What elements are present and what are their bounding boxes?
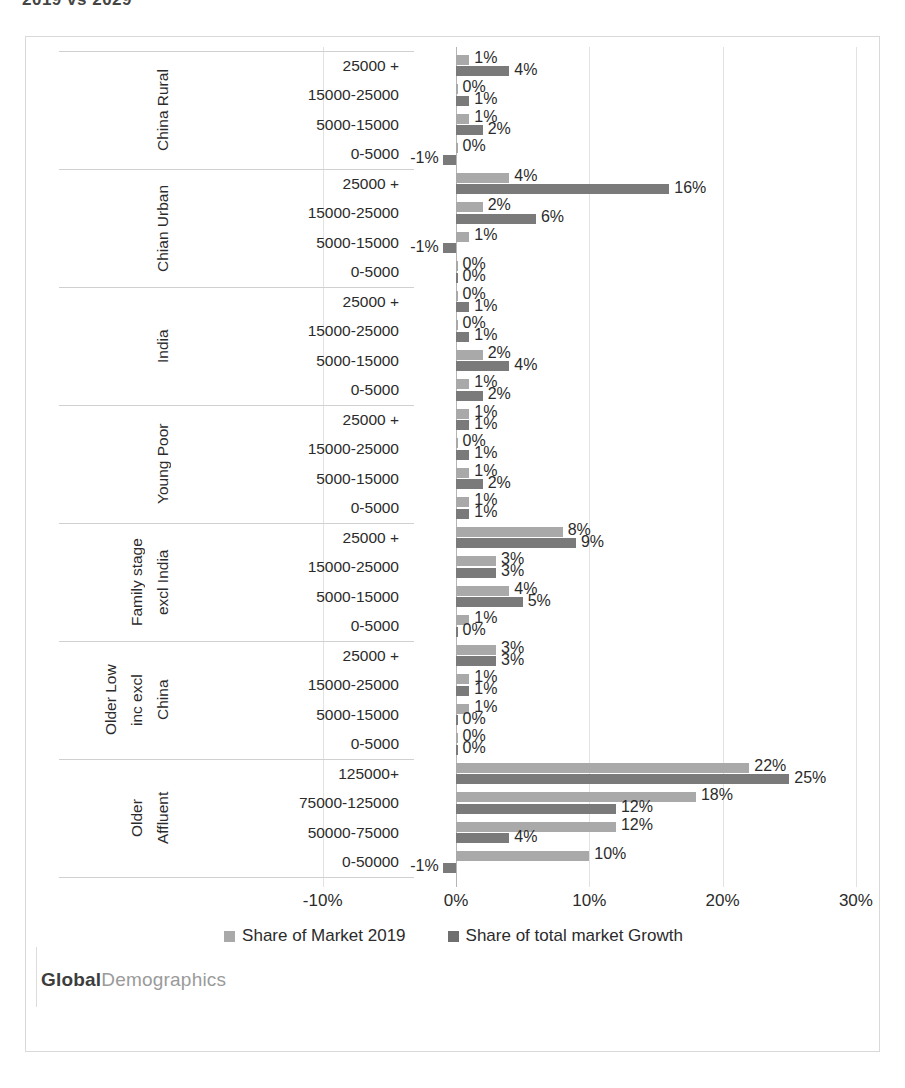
band-label: 15000-25000 bbox=[26, 205, 399, 221]
legend-swatch-icon bbox=[448, 931, 459, 942]
x-tick-label: 30% bbox=[839, 891, 873, 911]
title-remnant: 2019 vs 2029 bbox=[22, 0, 262, 12]
data-label: 1% bbox=[474, 416, 497, 432]
bar bbox=[456, 438, 458, 448]
band-label: 5000-15000 bbox=[26, 353, 399, 369]
data-label: 1% bbox=[474, 681, 497, 697]
data-label: 1% bbox=[474, 445, 497, 461]
bar bbox=[456, 645, 496, 655]
bar bbox=[456, 143, 458, 153]
bar bbox=[456, 55, 469, 65]
bar bbox=[456, 774, 789, 784]
bar bbox=[456, 391, 483, 401]
band-label: 0-50000 bbox=[26, 854, 399, 870]
data-label: -1% bbox=[401, 150, 439, 166]
bar bbox=[456, 420, 469, 430]
bar bbox=[456, 173, 509, 183]
data-label: 0% bbox=[463, 711, 486, 727]
band-label: 15000-25000 bbox=[26, 323, 399, 339]
bar bbox=[456, 232, 469, 242]
group-separator bbox=[59, 523, 414, 524]
bar bbox=[456, 214, 536, 224]
band-label: 5000-15000 bbox=[26, 117, 399, 133]
bar bbox=[456, 851, 589, 861]
bar bbox=[456, 202, 483, 212]
bar bbox=[443, 243, 456, 253]
data-label: 2% bbox=[488, 475, 511, 491]
bar bbox=[456, 479, 483, 489]
bar bbox=[456, 332, 469, 342]
group-separator bbox=[59, 51, 414, 52]
bar bbox=[456, 114, 469, 124]
bar bbox=[456, 763, 749, 773]
bar bbox=[456, 84, 458, 94]
data-label: 2% bbox=[488, 386, 511, 402]
bar bbox=[456, 66, 509, 76]
data-label: 0% bbox=[463, 268, 486, 284]
band-label: 15000-25000 bbox=[26, 677, 399, 693]
band-label: 125000+ bbox=[26, 766, 399, 782]
data-label: 4% bbox=[514, 62, 537, 78]
bar bbox=[456, 320, 458, 330]
bar bbox=[456, 450, 469, 460]
data-label: 18% bbox=[701, 787, 733, 803]
group-separator bbox=[59, 405, 414, 406]
band-label: 0-5000 bbox=[26, 382, 399, 398]
data-label: 2% bbox=[488, 121, 511, 137]
band-label: 5000-15000 bbox=[26, 471, 399, 487]
brand-logo: GlobalDemographics bbox=[41, 969, 226, 991]
data-label: 0% bbox=[463, 622, 486, 638]
bar bbox=[456, 302, 469, 312]
x-tick-label: 10% bbox=[572, 891, 606, 911]
band-label: 5000-15000 bbox=[26, 707, 399, 723]
bar bbox=[443, 863, 456, 873]
bar bbox=[443, 155, 456, 165]
group-separator bbox=[59, 169, 414, 170]
x-tick-label: -10% bbox=[303, 891, 343, 911]
bar bbox=[456, 733, 458, 743]
bar bbox=[456, 468, 469, 478]
data-label: 1% bbox=[474, 298, 497, 314]
chart-page: 2019 vs 2029 China Rural25000 +1%4%15000… bbox=[0, 0, 905, 1088]
bar bbox=[456, 184, 669, 194]
data-label: 10% bbox=[594, 846, 626, 862]
bar bbox=[456, 509, 469, 519]
data-label: 3% bbox=[501, 652, 524, 668]
band-label: 0-5000 bbox=[26, 736, 399, 752]
legend-item[interactable]: Share of Market 2019 bbox=[224, 926, 405, 946]
data-label: 16% bbox=[674, 180, 706, 196]
band-label: 75000-125000 bbox=[26, 795, 399, 811]
group-separator bbox=[59, 877, 414, 878]
data-label: 9% bbox=[581, 534, 604, 550]
bar bbox=[456, 656, 496, 666]
bar bbox=[456, 686, 469, 696]
data-label: 4% bbox=[514, 168, 537, 184]
band-label: 25000 + bbox=[26, 530, 399, 546]
data-label: -1% bbox=[401, 858, 439, 874]
data-label: 1% bbox=[474, 227, 497, 243]
data-label: 4% bbox=[514, 829, 537, 845]
band-label: 15000-25000 bbox=[26, 441, 399, 457]
legend-item[interactable]: Share of total market Growth bbox=[448, 926, 683, 946]
bar bbox=[456, 96, 469, 106]
brand-light: Demographics bbox=[101, 969, 226, 990]
bar bbox=[456, 125, 483, 135]
data-label: 2% bbox=[488, 197, 511, 213]
data-label: 12% bbox=[621, 799, 653, 815]
bar bbox=[456, 409, 469, 419]
gridline bbox=[856, 47, 857, 887]
band-label: 5000-15000 bbox=[26, 589, 399, 605]
band-label: 25000 + bbox=[26, 176, 399, 192]
data-label: -1% bbox=[401, 239, 439, 255]
data-label: 25% bbox=[794, 770, 826, 786]
group-separator bbox=[59, 759, 414, 760]
bar bbox=[456, 497, 469, 507]
bar bbox=[456, 538, 576, 548]
bar bbox=[456, 273, 458, 283]
band-label: 0-5000 bbox=[26, 264, 399, 280]
band-label: 0-5000 bbox=[26, 618, 399, 634]
bar bbox=[456, 556, 496, 566]
data-label: 1% bbox=[474, 327, 497, 343]
bar bbox=[456, 792, 696, 802]
plot-area: China Rural25000 +1%4%15000-250000%1%500… bbox=[26, 37, 881, 899]
